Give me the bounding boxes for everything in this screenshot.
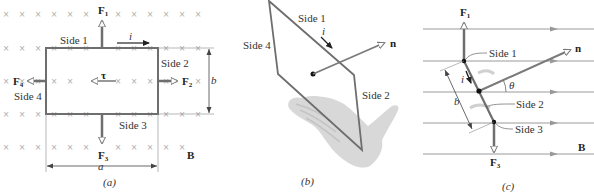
field-cross-icon: × — [179, 143, 186, 152]
field-cross-icon: × — [67, 10, 74, 19]
field-cross-icon: × — [179, 110, 186, 119]
normal-label-c: n — [575, 42, 581, 54]
rotation-indicator-top — [478, 71, 494, 74]
field-cross-icon: × — [195, 44, 202, 53]
field-cross-icon: × — [19, 44, 26, 53]
field-cross-icon: × — [35, 143, 42, 152]
field-cross-icon: × — [163, 110, 170, 119]
field-cross-icon: × — [3, 110, 10, 119]
field-cross-icon: × — [35, 10, 42, 19]
field-cross-icon: × — [195, 77, 202, 86]
force-f2-label: F2 — [182, 75, 193, 89]
side2-label-c: Side 2 — [516, 98, 544, 110]
dimension-b-ext-top-c — [440, 61, 464, 71]
current-label: i — [129, 30, 132, 42]
dimension-a-label: a — [98, 160, 104, 172]
current-label-c: i — [461, 73, 464, 85]
caption-b: (b) — [301, 175, 314, 188]
field-cross-icon: × — [163, 10, 170, 19]
panel-b: Side 1 Side 4 Side 2 i n (b) — [243, 1, 399, 188]
field-cross-icon: × — [19, 110, 26, 119]
figure: ××××××××××××××××××××××××××××××××××××××××… — [0, 0, 594, 192]
field-cross-icon: × — [131, 143, 138, 152]
field-cross-icon: × — [19, 143, 26, 152]
field-cross-icon: × — [35, 44, 42, 53]
force-f3-label-c: F3 — [490, 156, 501, 170]
side3-label-c: Side 3 — [515, 123, 543, 135]
field-cross-icon: × — [83, 143, 90, 152]
field-cross-icon: × — [3, 10, 10, 19]
field-cross-icon: × — [163, 44, 170, 53]
theta-label: θ — [509, 79, 515, 91]
caption-c: (c) — [502, 180, 515, 192]
force-f1-label-c: F1 — [460, 6, 471, 20]
field-cross-icon: × — [179, 10, 186, 19]
field-cross-icon: × — [195, 110, 202, 119]
field-cross-icon: × — [179, 44, 186, 53]
side3-leader — [495, 123, 513, 129]
field-cross-icon: × — [67, 143, 74, 152]
field-cross-icon: × — [115, 10, 122, 19]
field-cross-icon: × — [19, 10, 26, 19]
field-cross-icon: × — [163, 143, 170, 152]
field-cross-icon: × — [115, 143, 122, 152]
side4-label-b: Side 4 — [243, 39, 271, 51]
field-cross-icon: × — [131, 10, 138, 19]
field-cross-icon: × — [35, 110, 42, 119]
side2-label-b: Side 2 — [362, 89, 390, 101]
field-cross-icon: × — [51, 143, 58, 152]
side3-label: Side 3 — [119, 119, 147, 131]
dimension-b-label: b — [211, 74, 217, 86]
side1-leader — [465, 53, 487, 60]
field-b-label: B — [187, 149, 195, 161]
field-cross-icon: × — [3, 44, 10, 53]
field-cross-icon: × — [83, 10, 90, 19]
dimension-b-label-c: b — [454, 95, 460, 107]
field-cross-icon: × — [3, 77, 10, 86]
theta-arc — [504, 81, 507, 93]
field-cross-icon: × — [195, 10, 202, 19]
field-cross-icon: × — [147, 143, 154, 152]
field-cross-icon: × — [51, 10, 58, 19]
panel-a: ××××××××××××××××××××××××××××××××××××××××… — [3, 4, 217, 189]
field-cross-icon: × — [67, 77, 74, 86]
torque-label: τ — [101, 69, 106, 81]
pivot-dot — [476, 88, 481, 93]
normal-label-b: n — [390, 37, 396, 49]
current-arrow-b — [321, 37, 332, 48]
dimension-b-ext-bottom-c — [469, 122, 494, 133]
side4-label: Side 4 — [14, 90, 42, 102]
side1-label-b: Side 1 — [298, 12, 326, 24]
side2-label: Side 2 — [161, 57, 189, 69]
force-f1-label: F1 — [98, 4, 109, 18]
caption-a: (a) — [103, 176, 116, 189]
field-cross-icon: × — [51, 77, 58, 86]
field-b-label-c: B — [578, 141, 586, 153]
field-cross-icon: × — [3, 143, 10, 152]
field-cross-icon: × — [131, 77, 138, 86]
field-cross-icon: × — [147, 10, 154, 19]
side1-label: Side 1 — [60, 34, 88, 46]
side1-label-c: Side 1 — [489, 47, 517, 59]
field-cross-icon: × — [147, 77, 154, 86]
panel-c: Side 1 Side 2 Side 3 i b θ n B F1 F3 (c) — [423, 6, 594, 192]
force-f3-label: F3 — [98, 149, 109, 163]
current-label-b: i — [322, 25, 325, 37]
